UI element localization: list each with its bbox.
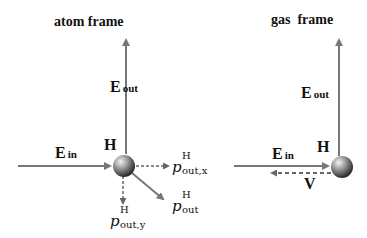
atom-frame-title: atom frame	[54, 14, 124, 30]
e-out-label: Eout	[110, 78, 138, 96]
p-out-label: p H out	[172, 195, 212, 221]
gas-frame-title: gas frame	[271, 12, 333, 28]
p-out-y-label: p H out,y	[110, 210, 150, 236]
hydrogen-atom-sphere	[113, 155, 135, 177]
velocity-label: V	[304, 175, 316, 193]
atom-label-h: H	[104, 136, 116, 154]
p-out-arrow	[132, 173, 163, 199]
e-out-label: Eout	[301, 84, 329, 102]
atom-label-h: H	[317, 138, 329, 156]
e-in-label: Ein	[55, 144, 77, 162]
e-in-label: Ein	[272, 145, 294, 163]
atom-frame-diagram	[18, 40, 168, 203]
p-out-x-label: p H out,x	[172, 156, 212, 182]
hydrogen-atom-sphere	[331, 156, 353, 178]
